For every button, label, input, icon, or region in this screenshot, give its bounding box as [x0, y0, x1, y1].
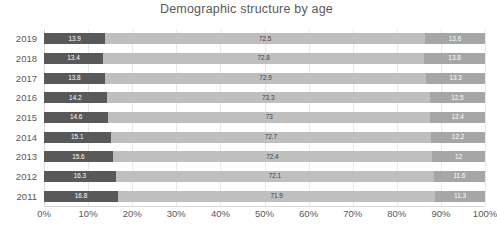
x-tick-label: 20% — [123, 208, 142, 219]
x-tick-label: 60% — [299, 208, 318, 219]
bar-row: 15.672.412 — [44, 151, 485, 162]
x-tick-label: 100% — [473, 208, 497, 219]
bar-segment-young: 13.8 — [44, 73, 105, 84]
bar-segment-elderly: 13.6 — [425, 33, 485, 44]
y-tick-label-2016: 2016 — [16, 92, 37, 103]
x-tick-label: 40% — [211, 208, 230, 219]
bar-segment-working-age: 72.4 — [113, 151, 432, 162]
y-tick-label-2017: 2017 — [16, 73, 37, 84]
y-tick-label-2012: 2012 — [16, 171, 37, 182]
y-tick-label-2019: 2019 — [16, 33, 37, 44]
bar-segment-elderly: 13.8 — [424, 53, 485, 64]
x-tick-label: 0% — [37, 208, 51, 219]
bar-row: 16.871.911.3 — [44, 191, 485, 202]
bar-segment-young: 14.2 — [44, 92, 107, 103]
bar-segment-working-age: 73 — [108, 112, 430, 123]
bar-segment-young: 16.8 — [44, 191, 118, 202]
x-tick-label: 30% — [167, 208, 186, 219]
bar-segment-elderly: 11.3 — [435, 191, 485, 202]
bar-segment-working-age: 72.8 — [103, 53, 424, 64]
bar-row: 13.872.913.3 — [44, 73, 485, 84]
bar-segment-elderly: 11.6 — [434, 171, 485, 182]
chart-title: Demographic structure by age — [0, 2, 493, 16]
x-axis-labels: 0%10%20%30%40%50%60%70%80%90%100% — [44, 208, 485, 228]
bar-segment-elderly: 12.4 — [430, 112, 485, 123]
x-tick-label: 90% — [431, 208, 450, 219]
bar-segment-young: 15.1 — [44, 132, 111, 143]
bar-segment-young: 16.3 — [44, 171, 116, 182]
bar-segment-working-age: 73.3 — [107, 92, 430, 103]
x-axis-line — [44, 206, 485, 207]
x-tick-label: 50% — [255, 208, 274, 219]
bar-row: 13.472.813.8 — [44, 53, 485, 64]
bar-segment-elderly: 12.5 — [430, 92, 485, 103]
bar-rows: 13.972.513.613.472.813.813.872.913.314.2… — [44, 29, 485, 206]
gridline-100 — [485, 29, 486, 206]
y-axis-labels: 201920182017201620152014201320122011 — [0, 29, 40, 206]
bar-segment-working-age: 72.1 — [116, 171, 434, 182]
y-tick-label-2018: 2018 — [16, 53, 37, 64]
bar-segment-elderly: 12.2 — [431, 132, 485, 143]
x-tick-label: 70% — [343, 208, 362, 219]
bar-segment-young: 13.4 — [44, 53, 103, 64]
bar-row: 14.273.312.5 — [44, 92, 485, 103]
y-tick-label-2011: 2011 — [17, 191, 37, 202]
bar-segment-working-age: 71.9 — [118, 191, 435, 202]
x-tick-label: 10% — [79, 208, 98, 219]
bar-segment-working-age: 72.9 — [105, 73, 426, 84]
y-tick-label-2013: 2013 — [16, 151, 37, 162]
bar-row: 15.172.712.2 — [44, 132, 485, 143]
bar-row: 14.67312.4 — [44, 112, 485, 123]
bar-segment-working-age: 72.7 — [111, 132, 432, 143]
bar-segment-young: 13.9 — [44, 33, 105, 44]
bar-row: 16.372.111.6 — [44, 171, 485, 182]
y-tick-label-2014: 2014 — [16, 132, 37, 143]
bar-segment-elderly: 13.3 — [426, 73, 485, 84]
bar-segment-young: 15.6 — [44, 151, 113, 162]
bar-segment-elderly: 12 — [432, 151, 485, 162]
bar-segment-working-age: 72.5 — [105, 33, 425, 44]
plot-area: 13.972.513.613.472.813.813.872.913.314.2… — [44, 29, 485, 206]
bar-segment-young: 14.6 — [44, 112, 108, 123]
x-tick-label: 80% — [387, 208, 406, 219]
y-tick-label-2015: 2015 — [16, 112, 37, 123]
bar-row: 13.972.513.6 — [44, 33, 485, 44]
